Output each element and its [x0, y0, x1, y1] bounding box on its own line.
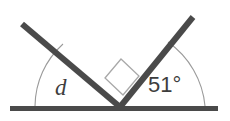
left-ray	[22, 24, 120, 107]
label-angle-51: 51°	[148, 72, 181, 97]
label-angle-d: d	[55, 75, 67, 100]
angle-diagram: d 51°	[0, 0, 230, 121]
geometry-canvas: d 51°	[0, 0, 230, 121]
